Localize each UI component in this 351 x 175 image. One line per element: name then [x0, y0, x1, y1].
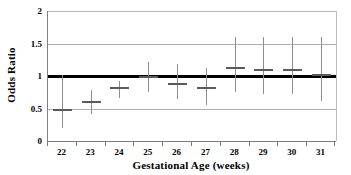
data-point-group	[250, 11, 279, 141]
confidence-interval-whisker	[263, 37, 264, 94]
y-axis-title-text: Odds Ratio	[5, 47, 17, 103]
data-point-group	[307, 11, 336, 141]
data-point-group	[77, 11, 106, 141]
y-axis-title: Odds Ratio	[0, 0, 22, 150]
data-point-group	[163, 11, 192, 141]
confidence-interval-whisker	[177, 64, 178, 98]
y-axis-tick-label: 1.5	[22, 39, 45, 48]
point-marker	[82, 101, 101, 103]
x-axis-tick	[76, 141, 77, 146]
data-point-group	[134, 11, 163, 141]
x-axis-tick	[249, 141, 250, 146]
x-axis-tick-label: 28	[220, 147, 249, 158]
data-point-group	[278, 11, 307, 141]
x-axis-tick	[133, 141, 134, 146]
x-axis-tick	[47, 141, 48, 146]
x-axis-ticks	[47, 141, 335, 146]
y-axis-tick-label: 0.5	[22, 104, 45, 113]
x-axis-title: Gestational Age (weeks)	[47, 159, 335, 171]
x-axis-tick-label: 22	[47, 147, 76, 158]
y-axis-tick-label: 1	[22, 72, 45, 81]
data-point-group	[48, 11, 77, 141]
x-axis-tick-label: 27	[191, 147, 220, 158]
x-axis-tick	[306, 141, 307, 146]
point-marker	[139, 76, 158, 78]
x-axis-tick-label: 24	[105, 147, 134, 158]
point-marker	[110, 87, 129, 89]
x-axis-tick-label: 26	[162, 147, 191, 158]
data-point-group	[192, 11, 221, 141]
x-axis-tick	[105, 141, 106, 146]
y-axis-tick-label: 0	[22, 137, 45, 146]
odds-ratio-chart: Odds Ratio 00.511.52 2223242526272829303…	[0, 0, 351, 175]
point-marker	[254, 69, 273, 71]
x-axis-tick	[191, 141, 192, 146]
confidence-interval-whisker	[235, 37, 236, 92]
data-point-group	[221, 11, 250, 141]
point-marker	[168, 83, 187, 85]
point-marker	[226, 67, 245, 69]
point-marker	[312, 74, 331, 76]
confidence-interval-whisker	[62, 75, 63, 128]
x-axis-tick	[334, 141, 335, 146]
confidence-interval-whisker	[292, 37, 293, 94]
x-axis-tick-label: 25	[133, 147, 162, 158]
point-marker	[197, 87, 216, 89]
data-point-group	[106, 11, 135, 141]
point-marker	[53, 109, 72, 111]
x-axis-tick-label: 29	[249, 147, 278, 158]
x-axis-tick-label: 30	[277, 147, 306, 158]
confidence-interval-whisker	[321, 37, 322, 101]
x-axis-tick-label: 31	[306, 147, 335, 158]
y-axis-tick-label: 2	[22, 7, 45, 16]
y-axis-tick-labels: 00.511.52	[22, 0, 45, 175]
x-axis-tick-label: 23	[76, 147, 105, 158]
x-axis-tick	[220, 141, 221, 146]
point-marker	[283, 69, 302, 71]
x-axis-tick	[277, 141, 278, 146]
x-axis-tick	[162, 141, 163, 146]
plot-area	[47, 11, 337, 141]
